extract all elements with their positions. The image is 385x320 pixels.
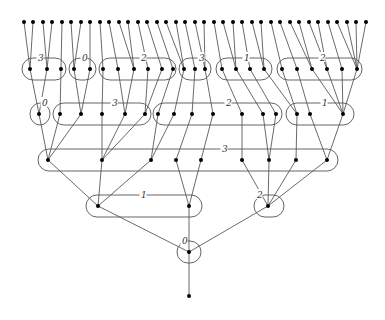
root-node (187, 294, 191, 298)
leaf-node (288, 20, 292, 24)
tree-edge (30, 69, 39, 114)
tree-edge (250, 69, 276, 114)
leaf-node (345, 20, 349, 24)
tree-edge (118, 69, 125, 114)
leaf-node (269, 20, 273, 24)
leaf-node (174, 20, 178, 24)
tree-edge (236, 69, 263, 114)
tree-node (171, 67, 175, 71)
tree-node (132, 67, 136, 71)
tree-node (160, 67, 164, 71)
tree-node (187, 250, 191, 254)
tree-edge (264, 69, 297, 114)
tree-edge (30, 22, 33, 69)
tree-edge (102, 114, 125, 160)
tree-node (59, 67, 63, 71)
tree-edge (282, 69, 297, 114)
tree-edge (102, 69, 103, 114)
tree-node (101, 67, 105, 71)
tree-node (72, 67, 76, 71)
tree-node (182, 67, 186, 71)
leaf-node (240, 20, 244, 24)
leaf-node (98, 20, 102, 24)
group-label: 2 (225, 98, 232, 108)
tree-node (295, 112, 299, 116)
tree-node (262, 67, 266, 71)
tree-node (267, 158, 271, 162)
tree-node (96, 204, 100, 208)
group-label: 2 (140, 53, 147, 63)
group-label: 0 (182, 236, 188, 246)
leaf-node (335, 20, 339, 24)
tree-node (325, 158, 329, 162)
group-label: 2 (256, 190, 263, 200)
tree-node (187, 204, 191, 208)
leaf-node (221, 20, 225, 24)
tree-edge (185, 22, 195, 69)
tree-edge (176, 22, 184, 69)
leaf-node (307, 20, 311, 24)
group-label: 3 (38, 53, 44, 63)
leaf-node (60, 20, 64, 24)
tree-edge (356, 22, 357, 69)
group-label: 1 (244, 53, 250, 63)
tree-edge (343, 69, 357, 114)
tree-edge (48, 160, 98, 206)
tree-edge (242, 160, 268, 206)
tree-node (79, 112, 83, 116)
tree-node (193, 67, 197, 71)
tree-node (143, 112, 147, 116)
tree-node (149, 158, 153, 162)
tree-edge (271, 22, 282, 69)
group-label: 1 (141, 190, 147, 200)
leaf-node (50, 20, 54, 24)
tree-edge (98, 160, 102, 206)
group-label: 1 (322, 98, 328, 108)
edges-layer (24, 22, 366, 296)
tree-edge (98, 206, 189, 252)
tree-node (88, 67, 92, 71)
leaf-node (69, 20, 73, 24)
tree-node (156, 112, 160, 116)
tree-edge (158, 69, 173, 114)
tree-edge (109, 22, 118, 69)
tree-node (248, 67, 252, 71)
tree-node (240, 112, 244, 116)
leaf-node (316, 20, 320, 24)
group-label: 3 (199, 53, 205, 63)
tree-node (261, 112, 265, 116)
tree-edge (60, 69, 61, 114)
tree-node (240, 158, 244, 162)
tree-edge (327, 69, 343, 114)
leaf-node (193, 20, 197, 24)
tree-node (37, 112, 41, 116)
leaf-node (297, 20, 301, 24)
leaf-node (164, 20, 168, 24)
tree-edge (310, 114, 327, 160)
tree-node (308, 112, 312, 116)
tree-node (211, 112, 215, 116)
tree-node (174, 158, 178, 162)
leaf-node (250, 20, 254, 24)
tree-node (172, 112, 176, 116)
leaf-node (326, 20, 330, 24)
leaf-node (212, 20, 216, 24)
leaf-node (136, 20, 140, 24)
leaf-node (183, 20, 187, 24)
group-label: 0 (42, 98, 48, 108)
leaf-node (231, 20, 235, 24)
tree-node (58, 112, 62, 116)
tree-edge (192, 69, 195, 114)
tree-edge (176, 114, 192, 160)
tree-edge (297, 69, 310, 114)
leaf-node (354, 20, 358, 24)
tree-node (325, 67, 329, 71)
tree-node (266, 204, 270, 208)
tree-edge (342, 69, 343, 114)
leaf-node (88, 20, 92, 24)
tree-node (100, 112, 104, 116)
tree-node (116, 67, 120, 71)
tree-edge (47, 22, 52, 69)
tree-node (280, 67, 284, 71)
group-label: 3 (222, 144, 228, 154)
